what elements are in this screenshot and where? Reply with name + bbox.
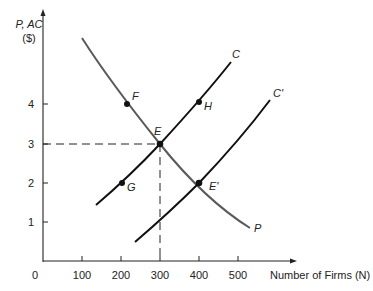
label-G: G xyxy=(127,181,136,193)
point-G xyxy=(119,180,125,186)
y-tick-label-4: 4 xyxy=(28,98,34,110)
label-E: E xyxy=(154,125,162,137)
y-axis-title: P, AC xyxy=(16,18,43,30)
label-F: F xyxy=(132,90,140,102)
x-axis-title: Number of Firms (N) xyxy=(270,269,370,281)
y-tick-label-3: 3 xyxy=(28,138,34,150)
x-tick-label-100: 100 xyxy=(73,269,91,281)
y-tick-label-2: 2 xyxy=(28,177,34,189)
curve-C-prime xyxy=(135,100,270,242)
origin-label: 0 xyxy=(32,269,38,281)
x-tick-label-400: 400 xyxy=(190,269,208,281)
y-tick-label-1: 1 xyxy=(28,216,34,228)
y-ticks xyxy=(43,104,48,222)
point-F xyxy=(124,101,130,107)
y-axis-unit: ($) xyxy=(22,32,35,44)
x-tick-label-300: 300 xyxy=(151,269,169,281)
curve-P xyxy=(82,38,250,228)
point-H xyxy=(196,99,202,105)
label-curve-P: P xyxy=(254,222,262,234)
chart-canvas: 1 2 3 4 0 100 200 300 400 500 P, AC ($) … xyxy=(0,0,373,291)
label-curve-C: C xyxy=(232,48,240,60)
x-ticks xyxy=(82,256,238,261)
point-E-prime xyxy=(196,180,203,187)
label-H: H xyxy=(204,100,212,112)
point-E xyxy=(157,141,164,148)
y-axis-arrow-icon xyxy=(41,9,46,16)
x-tick-label-200: 200 xyxy=(112,269,130,281)
label-E-prime: E' xyxy=(209,180,219,192)
x-axis-arrow-icon xyxy=(290,259,297,264)
label-curve-C-prime: C' xyxy=(273,87,284,99)
x-tick-label-500: 500 xyxy=(229,269,247,281)
